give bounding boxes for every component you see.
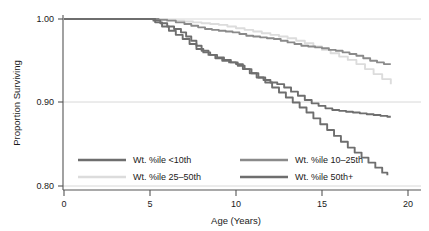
x-tick-label-10: 10 <box>231 199 241 209</box>
y-tick-label-0.90: 0.90 <box>36 97 54 107</box>
legend-label-wt-lt-10th: Wt. %ile <10th <box>133 155 191 165</box>
x-tick-label-15: 15 <box>317 199 327 209</box>
x-axis-title: Age (Years) <box>211 215 261 226</box>
legend-label-wt-10-25th: Wt. %ile 10–25th <box>295 155 363 165</box>
x-tick-label-0: 0 <box>61 199 66 209</box>
x-tick-label-5: 5 <box>147 199 152 209</box>
y-tick-label-1.00: 1.00 <box>36 14 54 24</box>
legend-label-wt-50th-plus: Wt. %ile 50th+ <box>295 172 353 182</box>
chart-background <box>0 0 429 231</box>
y-axis-title: Proportion Surviving <box>11 60 22 146</box>
y-tick-label-0.80: 0.80 <box>36 181 54 191</box>
survival-chart-figure: 1.00 0.90 0.80 0 5 10 15 20 Age (Years) … <box>0 0 429 231</box>
chart-canvas: 1.00 0.90 0.80 0 5 10 15 20 Age (Years) … <box>0 0 429 231</box>
x-tick-label-20: 20 <box>403 199 413 209</box>
legend-label-wt-25-50th: Wt. %ile 25–50th <box>133 172 201 182</box>
